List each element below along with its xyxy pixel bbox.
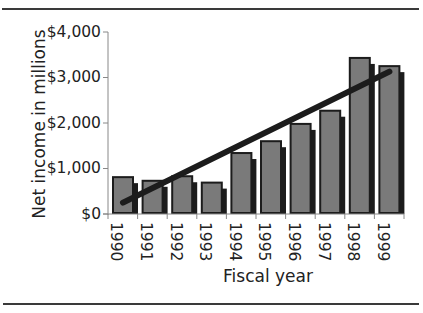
x-tick-label: 1996 [285, 222, 303, 261]
y-tick-label: $1,000 [47, 159, 101, 177]
y-tick-label: $3,000 [47, 68, 101, 86]
bar-1992 [172, 176, 197, 214]
x-axis: 1990199119921993199419951996199719981999 [103, 214, 404, 261]
bar-1997 [320, 111, 345, 214]
bar-chart: $0$1,000$2,000$3,000$4,000 1990199119921… [0, 0, 423, 313]
bar-1996 [291, 124, 316, 214]
y-tick-label: $4,000 [47, 23, 101, 41]
x-tick-label: 1998 [344, 222, 362, 261]
bar-1995 [261, 141, 286, 214]
x-tick-label: 1994 [226, 222, 244, 261]
x-tick-label: 1999 [374, 222, 392, 261]
bar-1993 [202, 183, 227, 214]
y-tick-label: $2,000 [47, 114, 101, 132]
x-tick-label: 1991 [137, 222, 155, 261]
x-tick-label: 1990 [107, 222, 125, 261]
x-tick-label: 1997 [315, 222, 333, 261]
x-tick-label: 1992 [167, 222, 185, 261]
bar-1994 [231, 153, 256, 214]
y-axis: $0$1,000$2,000$3,000$4,000 [47, 23, 108, 223]
bar-1999 [379, 66, 404, 214]
x-tick-label: 1995 [255, 222, 273, 261]
y-tick-label: $0 [81, 205, 101, 223]
x-axis-label: Fiscal year [223, 266, 313, 286]
y-axis-label: Net income in millions [29, 29, 49, 218]
x-tick-label: 1993 [196, 222, 214, 261]
